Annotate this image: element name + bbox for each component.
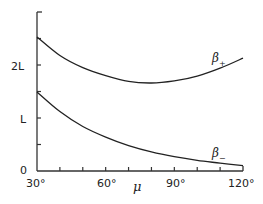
x-tick-label-120: 120° [228,177,255,190]
series-label-beta-minus: β− [211,146,226,163]
x-tick-label-60: 60° [97,177,117,190]
x-tick-label-90: 90° [166,177,186,190]
x-tick-label-30: 30° [26,177,46,190]
x-axis-label: μ [133,179,141,194]
x-axis [37,166,243,171]
y-tick-label-0: 0 [20,164,27,177]
y-tick-label-2L: 2L [11,60,25,73]
series-label-beta-plus: β+ [211,51,226,68]
y-tick-label-L: L [20,113,27,126]
chart: 0 L 2L 30° 60° 90° 120° μ β+ β− [0,0,263,204]
